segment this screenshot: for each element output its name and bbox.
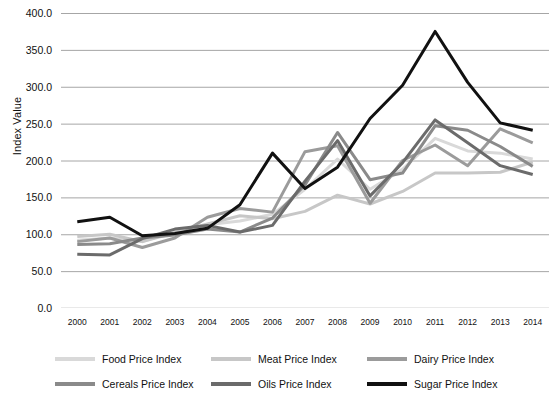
series-line [77,162,532,242]
series-line [77,31,532,235]
legend-swatch [211,382,251,386]
gridlines [61,14,549,309]
legend-label: Sugar Price Index [414,378,497,390]
legend-swatch [211,357,251,361]
legend-item[interactable]: Sugar Price Index [367,372,523,396]
x-tick-label: 2011 [419,317,451,327]
x-tick-label: 2007 [289,317,321,327]
line-chart: Index Value 400.0350.0300.0250.0200.0150… [0,0,557,406]
legend-item[interactable]: Cereals Price Index [55,372,211,396]
legend-label: Food Price Index [102,353,181,365]
x-tick-label: 2001 [94,317,126,327]
legend-swatch [55,382,95,386]
y-tick-label: 300.0 [26,82,52,92]
x-tick-label: 2013 [484,317,516,327]
legend-label: Meat Price Index [258,353,337,365]
x-tick-label: 2012 [452,317,484,327]
y-tick-label: 400.0 [26,8,52,18]
legend-swatch [367,357,407,361]
chart-legend: Food Price IndexMeat Price IndexDairy Pr… [55,347,525,397]
y-tick-label: 50.0 [32,266,52,276]
y-tick-label: 100.0 [26,229,52,239]
legend-item[interactable]: Oils Price Index [211,372,367,396]
y-tick-label: 150.0 [26,192,52,202]
legend-label: Cereals Price Index [102,378,194,390]
y-tick-label: 200.0 [26,156,52,166]
x-tick-label: 2004 [191,317,223,327]
x-tick-label: 2005 [224,317,256,327]
legend-swatch [367,382,407,386]
y-tick-label: 350.0 [26,45,52,55]
x-tick-label: 2006 [256,317,288,327]
y-tick-label: 250.0 [26,119,52,129]
plot-svg [61,13,549,308]
y-axis-tick-labels: 400.0350.0300.0250.0200.0150.0100.050.00… [0,0,52,406]
x-tick-label: 2000 [61,317,93,327]
y-tick-label: 0.0 [37,303,52,313]
legend-swatch [55,357,95,361]
series-lines [77,31,532,254]
x-tick-label: 2003 [159,317,191,327]
series-line [77,126,532,245]
x-tick-label: 2009 [354,317,386,327]
legend-label: Oils Price Index [258,378,332,390]
x-tick-label: 2010 [387,317,419,327]
x-tick-label: 2002 [126,317,158,327]
x-tick-label: 2008 [322,317,354,327]
legend-item[interactable]: Dairy Price Index [367,347,523,371]
legend-item[interactable]: Meat Price Index [211,347,367,371]
legend-label: Dairy Price Index [414,353,494,365]
x-tick-label: 2014 [517,317,549,327]
legend-item[interactable]: Food Price Index [55,347,211,371]
plot-area [61,13,549,308]
